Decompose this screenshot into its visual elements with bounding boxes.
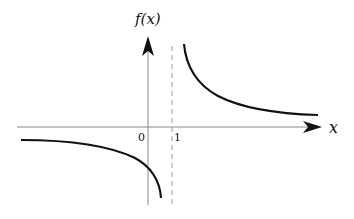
left-branch-curve: [21, 140, 161, 198]
function-graph: f(x) x 0 1: [0, 0, 354, 219]
asymptote-tick-label: 1: [174, 131, 181, 144]
origin-tick-label: 0: [138, 131, 145, 144]
right-branch-curve: [184, 44, 318, 115]
y-axis-label: f(x): [134, 10, 161, 28]
x-axis-label: x: [329, 118, 338, 137]
